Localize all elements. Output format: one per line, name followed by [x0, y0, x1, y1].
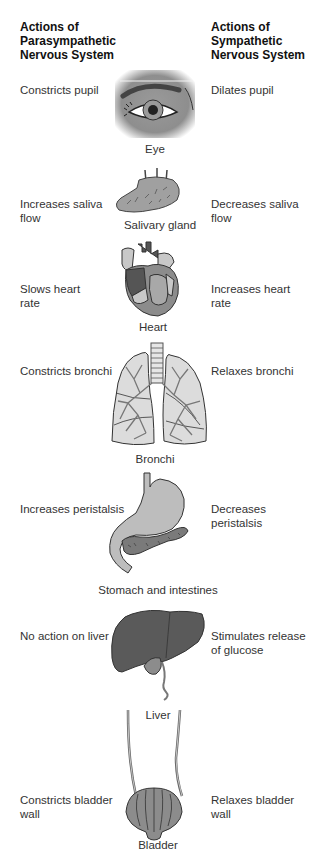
liver-symp-line-2: of glucose — [211, 643, 306, 657]
heart-para-line-2: rate — [20, 296, 80, 310]
eye-icon — [115, 70, 195, 138]
bladder-para-line-2: wall — [20, 807, 113, 821]
bladder-icon — [120, 708, 196, 838]
heart-icon — [118, 240, 184, 318]
bronchi-caption: Bronchi — [125, 452, 185, 466]
bronchi-sympathetic-action: Relaxes bronchi — [211, 364, 293, 378]
heart-symp-line-1: Increases heart — [211, 282, 290, 296]
header-right-line-3: Nervous System — [211, 48, 305, 62]
heart-para-line-1: Slows heart — [20, 282, 80, 296]
liver-icon — [110, 608, 206, 702]
header-left-line-3: Nervous System — [20, 48, 116, 62]
header-left-line-2: Parasympathetic — [20, 34, 116, 48]
bladder-symp-line-1: Relaxes bladder — [211, 793, 294, 807]
heart-sympathetic-action: Increases heart rate — [211, 282, 290, 310]
bladder-parasympathetic-action: Constricts bladder wall — [20, 793, 113, 821]
lungs-icon — [104, 343, 214, 453]
salivary-gland-icon — [115, 168, 185, 214]
header-sympathetic: Actions of Sympathetic Nervous System — [211, 20, 305, 62]
eye-parasympathetic-action: Constricts pupil — [20, 83, 99, 97]
liver-symp-line-1: Stimulates release — [211, 629, 306, 643]
header-right-line-2: Sympathetic — [211, 34, 305, 48]
header-parasympathetic: Actions of Parasympathetic Nervous Syste… — [20, 20, 116, 62]
eye-caption: Eye — [115, 142, 195, 156]
salivary-para-line-2: flow — [20, 211, 102, 225]
salivary-gland-caption: Salivary gland — [110, 218, 210, 232]
eye-sympathetic-action: Dilates pupil — [211, 83, 274, 97]
heart-symp-line-2: rate — [211, 296, 290, 310]
bladder-sympathetic-action: Relaxes bladder wall — [211, 793, 294, 821]
salivary-para-line-1: Increases saliva — [20, 197, 102, 211]
stomach-icon — [106, 473, 202, 573]
header-left-line-1: Actions of — [20, 20, 116, 34]
stomach-caption: Stomach and intestines — [88, 583, 228, 597]
bladder-symp-line-2: wall — [211, 807, 294, 821]
bladder-para-line-1: Constricts bladder — [20, 793, 113, 807]
salivary-symp-line-2: flow — [211, 211, 299, 225]
salivary-symp-line-1: Decreases saliva — [211, 197, 299, 211]
heart-caption: Heart — [120, 320, 186, 334]
liver-sympathetic-action: Stimulates release of glucose — [211, 629, 306, 657]
salivary-parasympathetic-action: Increases saliva flow — [20, 197, 102, 225]
header-right-line-1: Actions of — [211, 20, 305, 34]
salivary-sympathetic-action: Decreases saliva flow — [211, 197, 299, 225]
bladder-caption: Bladder — [128, 838, 188, 852]
heart-parasympathetic-action: Slows heart rate — [20, 282, 80, 310]
stomach-sympathetic-action: Decreases peristalsis — [211, 502, 316, 530]
bronchi-parasympathetic-action: Constricts bronchi — [20, 364, 112, 378]
liver-parasympathetic-action: No action on liver — [20, 629, 109, 643]
